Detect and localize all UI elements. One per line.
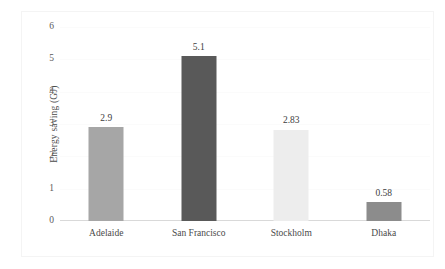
y-axis-tick-label: 1 <box>32 184 54 194</box>
bar[interactable] <box>89 127 124 221</box>
x-axis-category-label: Adelaide <box>60 228 153 238</box>
y-axis-tick-label: 5 <box>32 55 54 65</box>
y-axis-tick-label: 6 <box>32 22 54 32</box>
bar-group: 2.83 <box>245 27 338 221</box>
bar[interactable] <box>366 202 401 221</box>
y-axis-tick-label: 0 <box>32 216 54 226</box>
y-axis-tick-label: 4 <box>32 87 54 97</box>
bar-group: 0.58 <box>338 27 431 221</box>
bar-value-label: 2.9 <box>100 114 112 124</box>
y-axis-tick-label: 2 <box>32 152 54 162</box>
bar-value-label: 2.83 <box>283 116 300 126</box>
bar[interactable] <box>181 56 216 221</box>
bar-value-label: 5.1 <box>193 43 205 53</box>
bar-group: 5.1 <box>153 27 246 221</box>
plot-area: 2.95.12.830.58 <box>60 27 430 221</box>
x-axis-tick-labels: AdelaideSan FranciscoStockholmDhaka <box>60 228 430 246</box>
bar-value-label: 0.58 <box>375 189 392 199</box>
bar[interactable] <box>274 130 309 222</box>
x-axis-category-label: Stockholm <box>245 228 338 238</box>
y-axis-tick-labels: 0123456 <box>28 27 54 221</box>
y-axis-tick-label: 3 <box>32 119 54 129</box>
bar-chart: Energy saving (GJ) 0123456 2.95.12.830.5… <box>0 0 445 269</box>
x-axis-category-label: San Francisco <box>153 228 246 238</box>
x-axis-category-label: Dhaka <box>338 228 431 238</box>
bar-group: 2.9 <box>60 27 153 221</box>
